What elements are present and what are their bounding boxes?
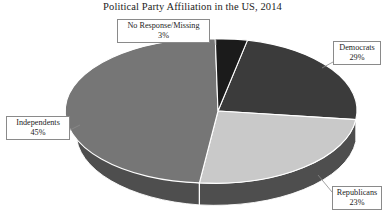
slice-label-democrats-name: Democrats <box>337 43 377 53</box>
slice-label-independents-value: 45% <box>10 128 66 138</box>
slice-label-no-response-value: 3% <box>121 31 206 41</box>
pie-chart-figure: Political Party Affiliation in the US, 2… <box>0 0 385 224</box>
slice-label-no-response[interactable]: No Response/Missing 3% <box>117 19 210 43</box>
pie-top-surface <box>65 39 357 183</box>
slice-label-republicans-name: Republicans <box>336 188 378 198</box>
slice-label-no-response-name: No Response/Missing <box>121 21 206 31</box>
slice-label-democrats[interactable]: Democrats 29% <box>333 41 381 65</box>
slice-label-republicans-value: 23% <box>336 198 378 208</box>
slice-label-republicans[interactable]: Republicans 23% <box>332 186 382 210</box>
slice-label-independents-name: Independents <box>10 118 66 128</box>
slice-label-independents[interactable]: Independents 45% <box>6 116 70 140</box>
slice-label-democrats-value: 29% <box>337 53 377 63</box>
